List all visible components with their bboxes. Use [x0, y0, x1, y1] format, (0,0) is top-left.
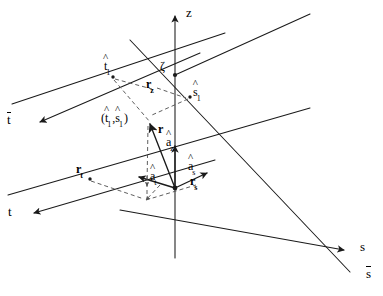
upper-plane-line-b — [175, 14, 310, 75]
label-s-hat-1: s1 — [193, 86, 202, 101]
dash-rt-to-bottom — [91, 181, 144, 199]
pair-s-subscript: 1 — [119, 120, 123, 129]
axis-label-t: t — [8, 205, 12, 218]
zeta-point — [173, 73, 177, 77]
label-r-t: rt — [76, 163, 84, 178]
a-hat-s-subscript: s — [192, 168, 195, 177]
pair-t-subscript: 1 — [107, 120, 111, 129]
label-vector-r: r — [158, 123, 163, 135]
label-a-hat-s: as — [188, 160, 196, 175]
a-hat-t-subscript: t — [154, 178, 156, 187]
label-r-s: rs — [190, 175, 198, 190]
axis-label-z: z — [186, 6, 192, 19]
dash-rz-to-s1 — [157, 88, 186, 98]
r-s-subscript: s — [194, 183, 197, 192]
axis-label-s: s — [360, 240, 365, 253]
r-t-subscript: t — [80, 171, 83, 180]
r-t-point — [88, 177, 91, 180]
geometry-figure: z ζ t t s s t1 s1 rz rt rs r az as at (t… — [0, 0, 383, 296]
label-a-hat-z: az — [166, 136, 175, 151]
label-r-z: rz — [146, 78, 155, 93]
label-a-hat-t: at — [150, 170, 158, 185]
a-hat-z-subscript: z — [170, 144, 174, 153]
r-z-subscript: z — [150, 86, 154, 95]
t-hat-1-subscript: 1 — [106, 68, 110, 77]
t-hat-1-point — [111, 75, 114, 78]
point-label-zeta: ζ — [160, 60, 165, 72]
label-coordinate-pair: (t1,s1) — [101, 112, 128, 127]
diagram-canvas — [0, 0, 383, 296]
label-t-hat-1: t1 — [104, 60, 111, 75]
s-hat-1-point — [188, 95, 191, 98]
s-hat-1-subscript: 1 — [197, 94, 201, 103]
axis-label-s-bar: s — [366, 266, 371, 280]
s-bar-glyph: s — [366, 266, 371, 280]
t-bar-glyph: t — [7, 112, 11, 126]
dash-s1-to-rtip — [152, 99, 188, 115]
pair-close-paren: ) — [124, 111, 128, 125]
axis-label-t-bar: t — [7, 112, 11, 126]
